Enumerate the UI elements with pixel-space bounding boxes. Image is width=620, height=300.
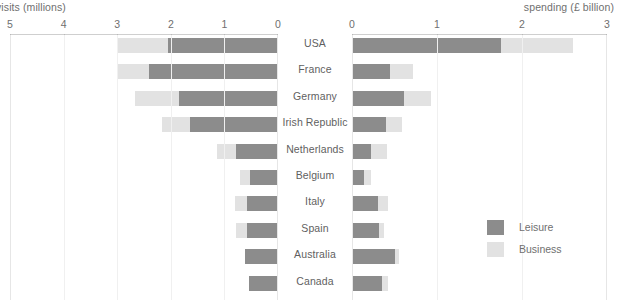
bar-row (352, 249, 607, 264)
bar-segment-visits-netherlands-business (217, 144, 236, 159)
visits-tick-label-4: 4 (61, 18, 67, 30)
bar-segment-spending-usa-leisure (352, 38, 501, 53)
bar-row (10, 170, 278, 185)
spending-tick-label-3: 3 (604, 18, 610, 30)
bar-row (10, 249, 278, 264)
bar-segment-spending-usa-business (501, 38, 573, 53)
visits-tick-label-2: 2 (168, 18, 174, 30)
spending-gridline-0 (352, 35, 353, 300)
bar-segment-spending-australia-business (395, 249, 399, 264)
bar-segment-spending-italy-business (378, 196, 387, 211)
country-label-france: France (278, 63, 352, 75)
spending-tick-label-1: 1 (434, 18, 440, 30)
bar-row (10, 144, 278, 159)
country-label-spain: Spain (278, 222, 352, 234)
bar-row (352, 276, 607, 291)
bar-row (352, 196, 607, 211)
bar-segment-spending-germany-leisure (352, 91, 404, 106)
bar-segment-visits-italy-business (235, 196, 247, 211)
bar-segment-visits-germany-leisure (179, 91, 278, 106)
bar-segment-spending-australia-leisure (352, 249, 395, 264)
bar-segment-spending-irish-republic-leisure (352, 117, 386, 132)
legend-swatch-business-icon (487, 242, 504, 257)
spending-plot-area (352, 35, 607, 300)
visits-plot-area (10, 35, 278, 300)
spending-panel: 0123 (352, 18, 607, 300)
bar-segment-visits-germany-business (135, 91, 179, 106)
bar-row (352, 170, 607, 185)
visits-tick-label-3: 3 (114, 18, 120, 30)
bar-segment-spending-netherlands-business (371, 144, 387, 159)
spending-tick-label-2: 2 (519, 18, 525, 30)
bar-segment-visits-australia-leisure (245, 249, 278, 264)
bar-segment-visits-spain-leisure (247, 223, 278, 238)
visits-panel: 543210 (10, 18, 278, 300)
bar-row (10, 117, 278, 132)
bar-segment-visits-usa-business (117, 38, 168, 53)
country-label-belgium: Belgium (278, 169, 352, 181)
country-label-usa: USA (278, 37, 352, 49)
bar-segment-visits-belgium-leisure (250, 170, 278, 185)
bar-row (10, 91, 278, 106)
bar-segment-spending-canada-leisure (352, 276, 382, 291)
bar-segment-visits-netherlands-leisure (236, 144, 278, 159)
bar-row (352, 64, 607, 79)
bar-segment-visits-france-business (118, 64, 149, 79)
bar-segment-spending-spain-business (379, 223, 384, 238)
bar-row (10, 38, 278, 53)
bar-segment-visits-france-leisure (149, 64, 278, 79)
bar-row (352, 117, 607, 132)
bar-segment-spending-canada-business (382, 276, 388, 291)
country-label-australia: Australia (278, 248, 352, 260)
bar-row (10, 276, 278, 291)
spending-gridline-1 (437, 35, 438, 300)
bar-row (10, 223, 278, 238)
chart-canvas: visits (millions) spending (£ billion) 5… (0, 0, 620, 300)
chart-legend: LeisureBusiness (487, 216, 562, 260)
legend-label: Leisure (519, 221, 553, 233)
bar-row (10, 64, 278, 79)
visits-gridline-3 (117, 35, 118, 300)
legend-item-leisure: Leisure (487, 216, 562, 238)
bar-segment-spending-france-business (390, 64, 413, 79)
right-axis-caption: spending (£ billion) (524, 1, 614, 13)
bar-segment-spending-irish-republic-business (386, 117, 402, 132)
bar-row (352, 223, 607, 238)
country-label-germany: Germany (278, 90, 352, 102)
legend-label: Business (519, 243, 562, 255)
bar-row (10, 196, 278, 211)
bar-row (352, 144, 607, 159)
bar-segment-visits-belgium-business (240, 170, 250, 185)
legend-swatch-leisure-icon (487, 220, 504, 235)
visits-tick-label-0: 0 (275, 18, 281, 30)
bar-segment-visits-italy-leisure (247, 196, 278, 211)
bar-segment-visits-usa-leisure (168, 38, 278, 53)
spending-tick-label-0: 0 (349, 18, 355, 30)
bar-segment-spending-france-leisure (352, 64, 390, 79)
spending-tick-labels: 0123 (352, 18, 607, 32)
bar-segment-visits-irish-republic-leisure (190, 117, 278, 132)
bar-segment-spending-germany-business (404, 91, 431, 106)
bar-segment-spending-italy-leisure (352, 196, 378, 211)
visits-gridline-4 (64, 35, 65, 300)
bar-segment-spending-belgium-business (364, 170, 371, 185)
left-axis-caption: visits (millions) (0, 1, 66, 13)
spending-gridline-3 (606, 35, 607, 300)
bar-segment-spending-spain-leisure (352, 223, 379, 238)
bar-segment-visits-canada-leisure (249, 276, 278, 291)
bar-segment-spending-belgium-leisure (352, 170, 364, 185)
country-label-column: USAFranceGermanyIrish RepublicNetherland… (278, 35, 352, 300)
bar-row (352, 91, 607, 106)
visits-tick-label-1: 1 (221, 18, 227, 30)
spending-gridline-2 (522, 35, 523, 300)
country-label-irish-republic: Irish Republic (278, 116, 352, 128)
visits-tick-labels: 543210 (10, 18, 278, 32)
country-label-canada: Canada (278, 275, 352, 287)
visits-gridline-2 (171, 35, 172, 300)
country-label-netherlands: Netherlands (278, 143, 352, 155)
legend-item-business: Business (487, 238, 562, 260)
visits-gridline-1 (224, 35, 225, 300)
visits-gridline-5 (10, 35, 11, 300)
bar-segment-visits-spain-business (236, 223, 247, 238)
bar-segment-visits-irish-republic-business (162, 117, 190, 132)
